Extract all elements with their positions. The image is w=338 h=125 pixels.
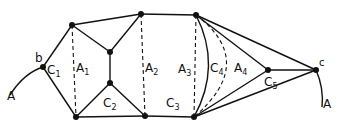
label-c: c (319, 57, 325, 68)
label-c4: C4 (210, 61, 223, 77)
label-a4: A4 (234, 61, 247, 77)
label-b: b (35, 51, 43, 65)
node (73, 114, 79, 120)
node (138, 11, 144, 17)
label-a1: A1 (76, 61, 89, 77)
label-c2: C2 (103, 96, 116, 112)
label-curve-a-right: A (323, 97, 332, 111)
node (191, 114, 197, 120)
graph-diagram: A A b c C1 A1 A2 C2 C3 A3 C4 A4 C5 (0, 0, 338, 125)
node (107, 80, 113, 86)
node (107, 49, 113, 55)
label-c3: C3 (166, 96, 179, 112)
label-a2: A2 (145, 61, 158, 77)
node (142, 113, 148, 119)
node-c5 (265, 67, 271, 73)
label-c1: C1 (47, 63, 60, 79)
label-curve-a-left: A (7, 89, 16, 103)
node (69, 22, 75, 28)
node (193, 12, 199, 18)
label-a3: A3 (178, 62, 191, 78)
label-c5: C5 (264, 75, 277, 91)
curve-a-right (316, 70, 322, 107)
